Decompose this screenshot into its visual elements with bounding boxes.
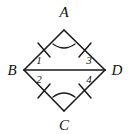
angle-label-1: 1 bbox=[36, 54, 42, 66]
vertex-label-d: D bbox=[111, 62, 123, 78]
geometry-figure: A B C D 1 2 3 4 bbox=[0, 0, 129, 134]
angle-label-4: 4 bbox=[86, 73, 92, 85]
angle-arc-c bbox=[53, 93, 75, 97]
vertex-label-b: B bbox=[7, 62, 16, 78]
angle-arc-a bbox=[53, 44, 75, 48]
vertex-label-c: C bbox=[59, 117, 70, 133]
geometry-canvas: A B C D 1 2 3 4 bbox=[0, 0, 129, 134]
angle-label-3: 3 bbox=[85, 54, 92, 66]
angle-label-2: 2 bbox=[36, 73, 42, 85]
vertex-label-a: A bbox=[58, 4, 69, 20]
